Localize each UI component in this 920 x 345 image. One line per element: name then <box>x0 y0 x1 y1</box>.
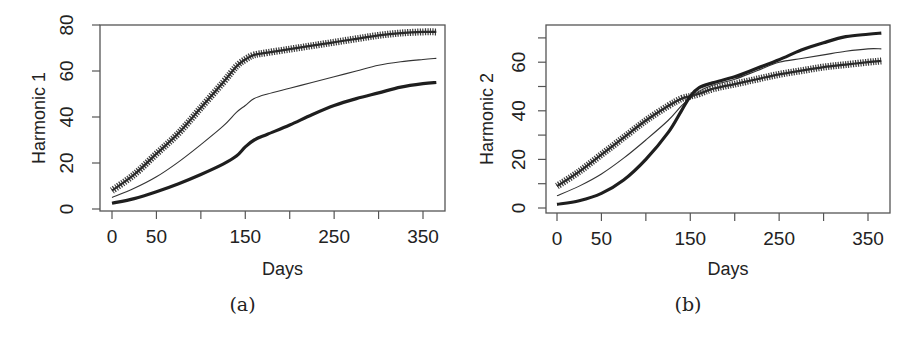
y-tick-label: 20 <box>56 152 77 173</box>
panel-caption: (b) <box>675 293 702 315</box>
harmonic-2-chart: 0204060050150250350DaysHarmonic 2(b) <box>460 0 920 345</box>
y-axis-label: Harmonic 1 <box>29 72 49 164</box>
y-tick-label: 20 <box>508 149 529 170</box>
y-tick-label: 40 <box>508 100 529 121</box>
x-tick-label: 250 <box>318 226 350 247</box>
x-tick-label: 350 <box>407 226 439 247</box>
series-thin-line <box>112 58 436 197</box>
series-thin-line <box>557 49 881 196</box>
y-tick-label: 60 <box>56 60 77 81</box>
series-crosses <box>112 32 436 191</box>
x-axis-label: Days <box>262 259 303 279</box>
y-axis-label: Harmonic 2 <box>477 73 497 165</box>
x-tick-label: 0 <box>107 226 118 247</box>
y-tick-label: 0 <box>508 203 529 214</box>
y-tick-label: 60 <box>508 52 529 73</box>
x-tick-label: 350 <box>852 228 884 249</box>
series-thick-line <box>112 83 436 204</box>
plot-frame <box>546 25 890 213</box>
x-tick-label: 150 <box>229 226 261 247</box>
panel-caption: (a) <box>229 293 255 315</box>
x-tick-label: 0 <box>552 228 563 249</box>
y-tick-label: 80 <box>56 14 77 35</box>
y-tick-label: 0 <box>56 204 77 215</box>
chart-panel-a: 020406080050150250350DaysHarmonic 1(a) <box>0 0 460 345</box>
y-tick-label: 40 <box>56 106 77 127</box>
x-tick-label: 50 <box>591 228 612 249</box>
series-crosses-core <box>112 32 436 191</box>
harmonic-1-chart: 020406080050150250350DaysHarmonic 1(a) <box>0 0 460 345</box>
x-axis-label: Days <box>707 259 748 279</box>
x-tick-label: 250 <box>763 228 795 249</box>
x-tick-label: 150 <box>674 228 706 249</box>
series-thick-line <box>557 33 881 204</box>
x-tick-label: 50 <box>146 226 167 247</box>
chart-panel-b: 0204060050150250350DaysHarmonic 2(b) <box>460 0 920 345</box>
